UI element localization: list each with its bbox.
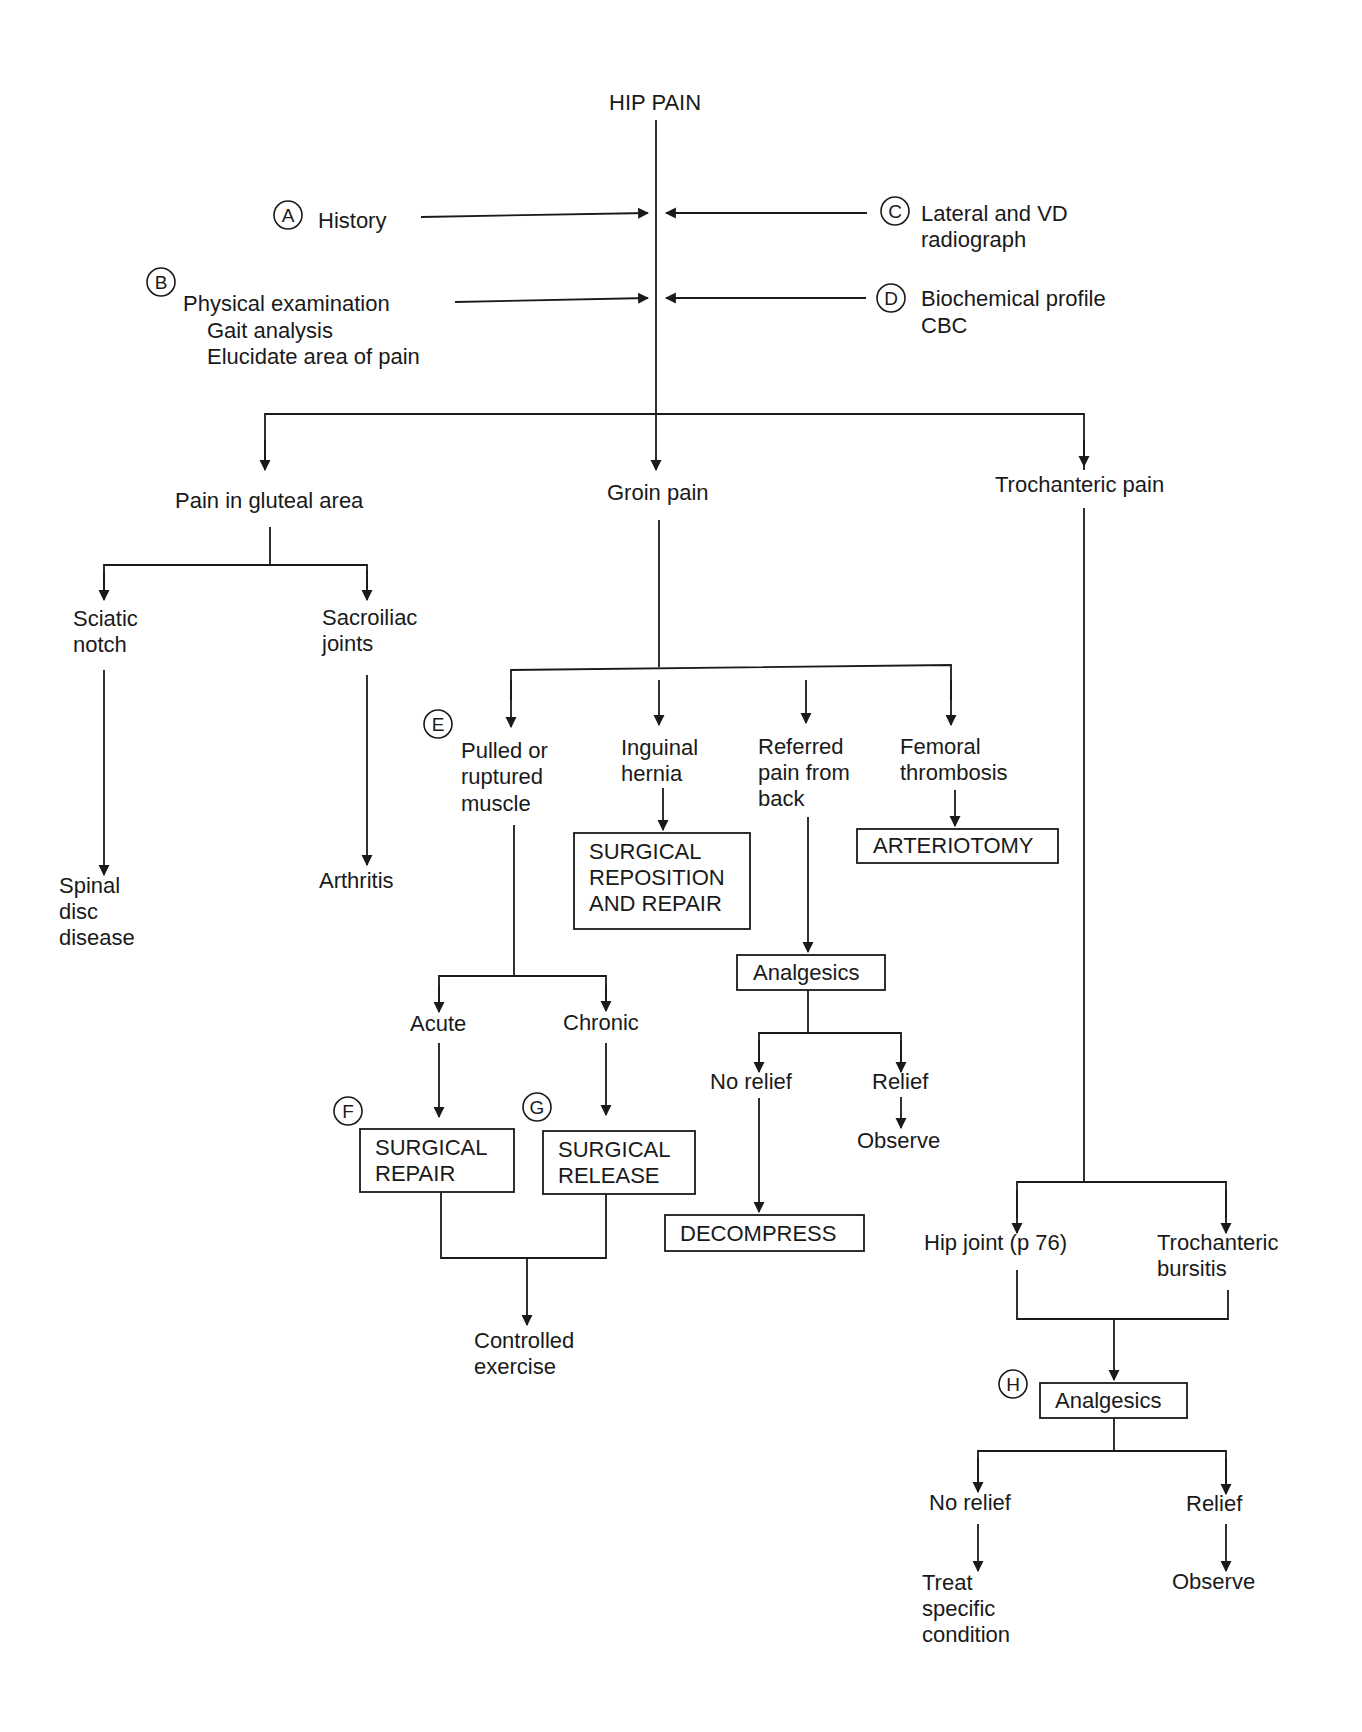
femoral-label-2: thrombosis bbox=[900, 760, 1008, 785]
surgical-release-line-2: RELEASE bbox=[558, 1163, 660, 1188]
gait-analysis-label: Gait analysis bbox=[207, 318, 333, 343]
trochanteric-label: Trochanteric pain bbox=[995, 472, 1164, 497]
muscle-label-3: muscle bbox=[461, 791, 531, 816]
decompress-label: DECOMPRESS bbox=[680, 1221, 836, 1246]
referred-label-2: pain from bbox=[758, 760, 850, 785]
physical-exam-arrow bbox=[455, 298, 648, 302]
muscle-label-2: ruptured bbox=[461, 764, 543, 789]
sciatic-label-1: Sciatic bbox=[73, 606, 138, 631]
marker-a-label: A bbox=[282, 205, 295, 226]
bursitis-label-2: bursitis bbox=[1157, 1256, 1227, 1281]
title-hip-pain: HIP PAIN bbox=[609, 90, 701, 115]
history-label: History bbox=[318, 208, 386, 233]
marker-b-label: B bbox=[155, 272, 168, 293]
sciatic-label-2: notch bbox=[73, 632, 127, 657]
surgical-repair-line-2: REPAIR bbox=[375, 1161, 455, 1186]
sacroiliac-label-2: joints bbox=[321, 631, 373, 656]
gluteal-split bbox=[104, 565, 367, 597]
femoral-label-1: Femoral bbox=[900, 734, 981, 759]
controlled-exercise-line-2: exercise bbox=[474, 1354, 556, 1379]
referred-label-3: back bbox=[758, 786, 805, 811]
surgical-release-line-1: SURGICAL bbox=[558, 1137, 670, 1162]
hip-pain-flowchart: HIP PAIN A History B Physical examinatio… bbox=[0, 0, 1362, 1732]
gluteal-label: Pain in gluteal area bbox=[175, 488, 364, 513]
radiograph-label-1: Lateral and VD bbox=[921, 201, 1068, 226]
reposition-line-2: REPOSITION bbox=[589, 865, 725, 890]
analgesics-troch-label: Analgesics bbox=[1055, 1388, 1161, 1413]
trochanteric-split bbox=[1017, 1182, 1226, 1218]
elucidate-pain-label: Elucidate area of pain bbox=[207, 344, 420, 369]
analgesics-groin-label: Analgesics bbox=[753, 960, 859, 985]
input-biochem: D Biochemical profile CBC bbox=[666, 284, 1106, 338]
arthritis-label: Arthritis bbox=[319, 868, 394, 893]
surgery-merge bbox=[441, 1192, 606, 1258]
marker-f-label: F bbox=[342, 1101, 354, 1122]
history-arrow bbox=[421, 213, 648, 217]
relief-troch-label: Relief bbox=[1186, 1491, 1243, 1516]
muscle-split bbox=[439, 976, 606, 1005]
surgical-repair-line-1: SURGICAL bbox=[375, 1135, 487, 1160]
no-relief-groin-label: No relief bbox=[710, 1069, 793, 1094]
controlled-exercise-line-1: Controlled bbox=[474, 1328, 574, 1353]
spinal-disc-label-2: disc bbox=[59, 899, 98, 924]
spinal-disc-label-3: disease bbox=[59, 925, 135, 950]
arteriotomy-label: ARTERIOTOMY bbox=[873, 833, 1034, 858]
marker-d-label: D bbox=[884, 288, 898, 309]
spinal-disc-label-1: Spinal bbox=[59, 873, 120, 898]
marker-h-label: H bbox=[1006, 1374, 1020, 1395]
hernia-label-1: Inguinal bbox=[621, 735, 698, 760]
split-bar-level1 bbox=[265, 414, 1084, 470]
referred-label-1: Referred bbox=[758, 734, 844, 759]
analgesics-troch-split bbox=[978, 1451, 1226, 1490]
groin-label: Groin pain bbox=[607, 480, 709, 505]
acute-label: Acute bbox=[410, 1011, 466, 1036]
reposition-line-3: AND REPAIR bbox=[589, 891, 722, 916]
physical-exam-label: Physical examination bbox=[183, 291, 390, 316]
relief-groin-label: Relief bbox=[872, 1069, 929, 1094]
hip-joint-label: Hip joint (p 76) bbox=[924, 1230, 1067, 1255]
marker-e-label: E bbox=[432, 714, 445, 735]
no-relief-troch-label: No relief bbox=[929, 1490, 1012, 1515]
reposition-line-1: SURGICAL bbox=[589, 839, 701, 864]
input-history: A History bbox=[274, 201, 648, 233]
chronic-label: Chronic bbox=[563, 1010, 639, 1035]
treat-line-3: condition bbox=[922, 1622, 1010, 1647]
marker-g-label: G bbox=[530, 1097, 545, 1118]
gluteal-branch: Sciatic notch Sacroiliac joints Spinal d… bbox=[59, 527, 417, 950]
marker-c-label: C bbox=[888, 201, 902, 222]
input-physical-exam: B Physical examination Gait analysis Elu… bbox=[147, 268, 648, 369]
hernia-label-2: hernia bbox=[621, 761, 683, 786]
observe-groin-label: Observe bbox=[857, 1128, 940, 1153]
observe-troch-label: Observe bbox=[1172, 1569, 1255, 1594]
biochem-label-2: CBC bbox=[921, 313, 968, 338]
input-radiograph: C Lateral and VD radiograph bbox=[666, 197, 1068, 252]
muscle-label-1: Pulled or bbox=[461, 738, 548, 763]
trochanteric-branch: Hip joint (p 76) Trochanteric bursitis H… bbox=[922, 508, 1278, 1647]
biochem-label-1: Biochemical profile bbox=[921, 286, 1106, 311]
sacroiliac-label-1: Sacroiliac bbox=[322, 605, 417, 630]
treat-line-1: Treat bbox=[922, 1570, 973, 1595]
radiograph-label-2: radiograph bbox=[921, 227, 1026, 252]
bursitis-label-1: Trochanteric bbox=[1157, 1230, 1278, 1255]
groin-split bbox=[511, 665, 951, 700]
treat-line-2: specific bbox=[922, 1596, 995, 1621]
analgesics-groin-split bbox=[759, 1033, 901, 1065]
